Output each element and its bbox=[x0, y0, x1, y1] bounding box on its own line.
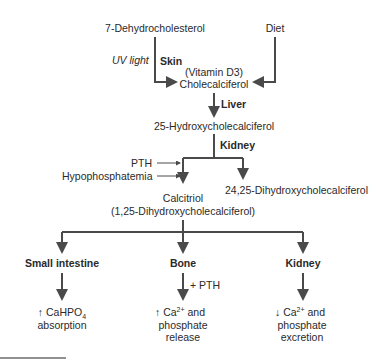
precursor-label: 7-Dehydrocholesterol bbox=[105, 22, 205, 34]
kidney-effect-line2: phosphate bbox=[277, 319, 326, 331]
bone-effect-line2: phosphate bbox=[158, 319, 207, 331]
intestine-effect-line2: absorption bbox=[37, 319, 86, 331]
increase-arrow-icon: ↑ bbox=[38, 306, 43, 318]
increase-arrow-icon: ↑ bbox=[155, 306, 160, 318]
cholecalciferol-label: Cholecalciferol bbox=[180, 78, 249, 90]
bone-effect: ↑ Ca2+ and bbox=[155, 306, 205, 318]
calcitriol-alias: (1,25-Dihydroxycholecalciferol) bbox=[111, 205, 255, 217]
target-kidney: Kidney bbox=[285, 257, 320, 269]
bone-effect-line3: release bbox=[166, 331, 200, 343]
hydroxy-label: 25-Hydroxycholecalciferol bbox=[154, 120, 274, 132]
decrease-arrow-icon: ↓ bbox=[275, 306, 280, 318]
kidney-effect-line3: excretion bbox=[281, 331, 324, 343]
calcitriol-label: Calcitriol bbox=[163, 192, 203, 204]
pth-stimulator: PTH bbox=[131, 157, 152, 169]
kidney-step-label: Kidney bbox=[220, 139, 255, 151]
target-small-intestine: Small intestine bbox=[25, 257, 99, 269]
vitamin-d3-label: (Vitamin D3) bbox=[185, 66, 243, 78]
liver-label: Liver bbox=[221, 98, 246, 110]
hypophosphatemia-stimulator: Hypophosphatemia bbox=[62, 170, 152, 182]
diet-label: Diet bbox=[266, 22, 285, 34]
uv-light-label: UV light bbox=[112, 54, 149, 66]
kidney-effect: ↓ Ca2+ and bbox=[275, 306, 325, 318]
alt-product-label: 24,25-Dihydroxycholecalciferol bbox=[225, 184, 368, 196]
skin-label: Skin bbox=[160, 55, 182, 67]
target-bone: Bone bbox=[170, 257, 196, 269]
intestine-effect: ↑ CaHPO4 bbox=[38, 306, 86, 318]
bone-pth-modifier: + PTH bbox=[190, 279, 220, 291]
